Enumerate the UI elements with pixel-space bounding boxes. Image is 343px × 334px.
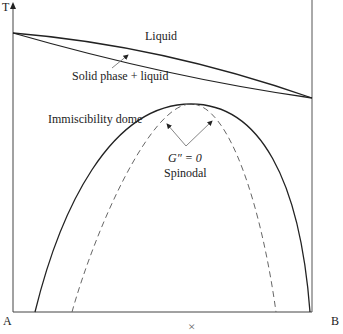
spinodal-arrow-left — [167, 124, 186, 146]
b-axis-label: B — [331, 315, 339, 327]
spinodal-label: Spinodal — [164, 167, 207, 179]
spinodal-curve — [72, 104, 276, 312]
solid-liquid-arrow — [112, 55, 128, 68]
immiscibility-label: Immiscibility dome — [48, 113, 142, 125]
t-axis-arrow-icon — [10, 2, 16, 9]
spinodal-arrow-right — [186, 121, 212, 146]
liquid-label: Liquid — [145, 30, 177, 42]
t-axis-label: T — [2, 1, 9, 13]
immiscibility-dome-curve — [35, 104, 310, 312]
a-axis-label: A — [3, 315, 12, 327]
spinodal-condition-label: G″ = 0 — [168, 152, 202, 164]
solid-liquid-label: Solid phase + liquid — [72, 70, 168, 82]
phase-diagram: T A B × Liquid Solid phase + liquid Immi… — [0, 0, 343, 334]
composition-marker: × — [188, 320, 195, 333]
